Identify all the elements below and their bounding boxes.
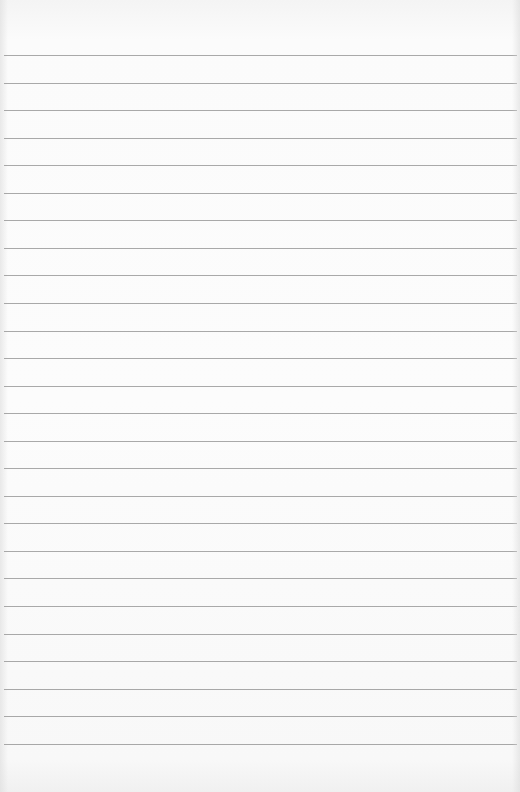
ruled-line xyxy=(4,661,517,662)
ruled-line xyxy=(4,716,517,717)
ruled-line xyxy=(4,83,517,84)
ruled-line xyxy=(4,413,517,414)
ruled-line xyxy=(4,165,517,166)
ruled-line xyxy=(4,331,517,332)
ruled-line xyxy=(4,634,517,635)
ruled-line xyxy=(4,358,517,359)
ruled-line xyxy=(4,275,517,276)
ruled-line xyxy=(4,606,517,607)
ruled-line xyxy=(4,468,517,469)
ruled-line xyxy=(4,523,517,524)
ruled-line xyxy=(4,496,517,497)
ruled-line xyxy=(4,248,517,249)
lined-paper-sheet xyxy=(0,0,520,792)
ruled-line xyxy=(4,55,517,56)
ruled-line xyxy=(4,193,517,194)
ruled-line xyxy=(4,386,517,387)
ruled-line xyxy=(4,110,517,111)
ruled-line xyxy=(4,689,517,690)
ruled-line xyxy=(4,744,517,745)
ruled-line xyxy=(4,220,517,221)
ruled-line xyxy=(4,441,517,442)
ruled-line xyxy=(4,578,517,579)
ruled-line xyxy=(4,303,517,304)
ruled-line xyxy=(4,138,517,139)
ruled-line xyxy=(4,551,517,552)
